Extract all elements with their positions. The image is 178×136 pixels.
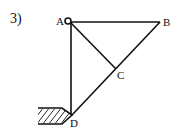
truss-diagram bbox=[0, 0, 178, 136]
pin-joint-a bbox=[65, 18, 71, 24]
fixed-support-hatch bbox=[30, 107, 74, 125]
member-ac bbox=[71, 23, 116, 69]
point-label-c: C bbox=[117, 70, 124, 81]
point-label-d: D bbox=[70, 118, 78, 129]
point-label-a: A bbox=[56, 16, 64, 27]
point-label-b: B bbox=[163, 17, 170, 28]
